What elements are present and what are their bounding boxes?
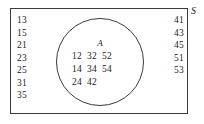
outside-left-item: 13 xyxy=(17,14,41,27)
outside-left-column: 13 15 21 23 25 31 35 xyxy=(17,14,41,102)
set-a-members: 12 32 52 14 34 54 24 42 xyxy=(72,50,144,89)
set-a-member-row: 12 32 52 xyxy=(72,50,144,63)
universal-set-label: S xyxy=(191,5,196,16)
outside-right-item: 51 xyxy=(160,52,184,65)
outside-right-item: 53 xyxy=(160,64,184,77)
outside-left-item: 31 xyxy=(17,77,41,90)
set-a-label: A xyxy=(56,38,144,49)
outside-right-column: 41 43 45 51 53 xyxy=(160,14,184,77)
outside-right-item: 43 xyxy=(160,27,184,40)
set-a-member-row: 24 42 xyxy=(72,76,144,89)
outside-left-item: 21 xyxy=(17,39,41,52)
outside-right-item: 41 xyxy=(160,14,184,27)
outside-left-item: 23 xyxy=(17,52,41,65)
outside-left-item: 15 xyxy=(17,27,41,40)
set-a-member-row: 14 34 54 xyxy=(72,63,144,76)
outside-right-item: 45 xyxy=(160,39,184,52)
outside-left-item: 35 xyxy=(17,89,41,102)
venn-diagram: S A 12 32 52 14 34 54 24 42 13 15 21 23 … xyxy=(0,0,204,124)
outside-left-item: 25 xyxy=(17,64,41,77)
